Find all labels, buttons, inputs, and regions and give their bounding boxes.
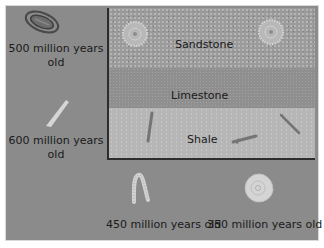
fossil-age-label-600: 600 million years old [6, 134, 106, 162]
sandstone-label: Sandstone [175, 38, 233, 51]
ammonite-fossil-icon [257, 18, 285, 46]
shale-layer: Shale [109, 108, 315, 158]
ammonite-fossil-icon [121, 20, 149, 48]
limestone-label: Limestone [171, 89, 228, 102]
age-line: 600 million years [6, 134, 106, 148]
rod-fossil-icon [42, 96, 72, 130]
age-line: old [6, 148, 106, 162]
rod-fossil-icon [279, 113, 303, 137]
ammonite-icon [242, 172, 276, 204]
limestone-layer: Limestone [109, 68, 315, 108]
worm-fossil-icon [130, 172, 152, 204]
sandstone-layer: Sandstone [109, 8, 315, 68]
diagram-panel: 500 million years old 600 million years … [6, 6, 318, 240]
rod-fossil-icon [231, 133, 259, 145]
fossil-age-label-450: 450 million years old [106, 218, 221, 232]
rod-fossil-icon [145, 111, 155, 143]
rock-layers: Sandstone Limestone Shale [107, 8, 315, 160]
shale-label: Shale [187, 133, 218, 146]
trilobite-icon [22, 9, 62, 35]
age-line: old [6, 56, 106, 70]
fossil-age-label-500: 500 million years old [6, 42, 106, 70]
fossil-age-label-350: 350 million years old [207, 218, 322, 232]
age-line: 500 million years [6, 42, 106, 56]
